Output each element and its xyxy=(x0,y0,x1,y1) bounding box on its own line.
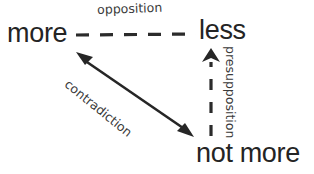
term-more: more xyxy=(7,20,67,47)
contradiction-arrow-shaft xyxy=(84,60,186,130)
term-not-more-part-quantity: more xyxy=(240,138,300,168)
term-not-more: notmore xyxy=(196,140,300,167)
opposition-dashed-line xyxy=(76,34,196,35)
presupposition-arrowhead-up xyxy=(202,48,220,62)
term-less: less xyxy=(199,17,246,44)
relation-label-opposition: opposition xyxy=(97,2,163,17)
semantic-square-diagram: more less notmore opposition contradicti… xyxy=(0,0,314,174)
relation-label-presupposition: presupposition xyxy=(224,46,237,138)
term-not-more-part-negation: not xyxy=(196,138,233,168)
